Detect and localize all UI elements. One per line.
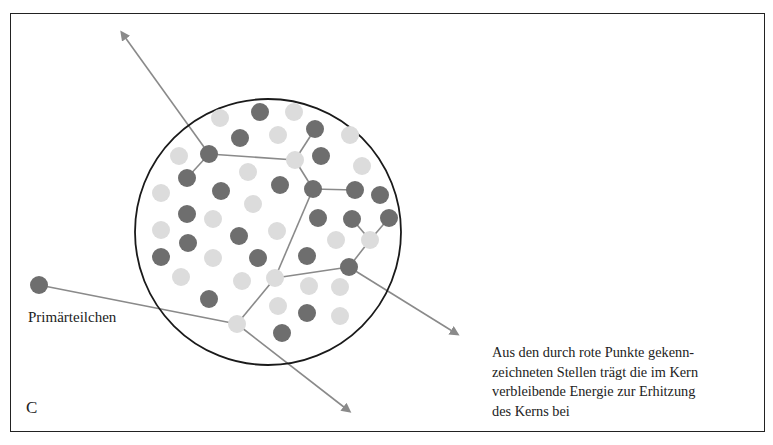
dark-nucleon [251, 103, 269, 121]
dark-nucleon [346, 181, 364, 199]
outgoing-track-arrow [237, 324, 349, 411]
light-nucleon [353, 157, 371, 175]
light-nucleon [239, 163, 257, 181]
dark-nucleon [200, 145, 218, 163]
nucleus-outline [135, 99, 401, 365]
dark-nucleon [371, 186, 389, 204]
dark-nucleon [298, 247, 316, 265]
light-nucleon [152, 221, 170, 239]
light-nucleon [286, 151, 304, 169]
dark-nucleon [179, 234, 197, 252]
light-nucleon [204, 249, 222, 267]
dark-nucleon [30, 276, 48, 294]
dark-nucleon [249, 249, 267, 267]
dark-nucleon [309, 209, 327, 227]
dark-nucleon [178, 169, 196, 187]
light-nucleon [300, 277, 318, 295]
light-nucleon [269, 297, 287, 315]
primary-particle-label: Primärteilchen [28, 308, 116, 326]
light-nucleon [228, 315, 246, 333]
dark-nucleon [152, 248, 170, 266]
light-nucleon [204, 210, 222, 228]
caption-text: Aus den durch rote Punkte gekenn- zeichn… [492, 343, 762, 421]
nucleons [30, 103, 398, 342]
dark-nucleon [200, 290, 218, 308]
light-nucleon [331, 278, 349, 296]
light-nucleon [285, 103, 303, 121]
scan-edge-bottom [0, 437, 773, 445]
light-nucleon [266, 269, 284, 287]
outgoing-track-arrow [122, 33, 209, 154]
light-nucleon [170, 147, 188, 165]
light-nucleon [331, 307, 349, 325]
caption-line: zeichneten Stellen trägt die im Kern [492, 363, 762, 383]
dark-nucleon [273, 324, 291, 342]
dark-nucleon [271, 176, 289, 194]
light-nucleon [152, 184, 170, 202]
light-nucleon [233, 272, 251, 290]
light-nucleon [341, 126, 359, 144]
light-nucleon [244, 195, 262, 213]
diagram-figure: Primärteilchen C Aus den durch rote Punk… [0, 0, 773, 445]
dark-nucleon [312, 147, 330, 165]
dark-nucleon [298, 304, 316, 322]
light-nucleon [268, 222, 286, 240]
caption-line: Aus den durch rote Punkte gekenn- [492, 343, 762, 363]
caption-line: des Kerns bei [492, 402, 762, 422]
light-nucleon [327, 231, 345, 249]
track-segment [275, 267, 349, 278]
panel-label: C [26, 399, 37, 417]
dark-nucleon [212, 182, 230, 200]
track-segment [209, 154, 295, 160]
dark-nucleon [230, 227, 248, 245]
dark-nucleon [304, 180, 322, 198]
dark-nucleon [340, 258, 358, 276]
light-nucleon [172, 268, 190, 286]
light-nucleon [269, 126, 287, 144]
dark-nucleon [343, 210, 361, 228]
dark-nucleon [306, 120, 324, 138]
light-nucleon [211, 109, 229, 127]
caption-line: verbleibende Energie zur Erhitzung [492, 382, 762, 402]
dark-nucleon [178, 205, 196, 223]
light-nucleon [361, 231, 379, 249]
dark-nucleon [380, 209, 398, 227]
dark-nucleon [231, 129, 249, 147]
